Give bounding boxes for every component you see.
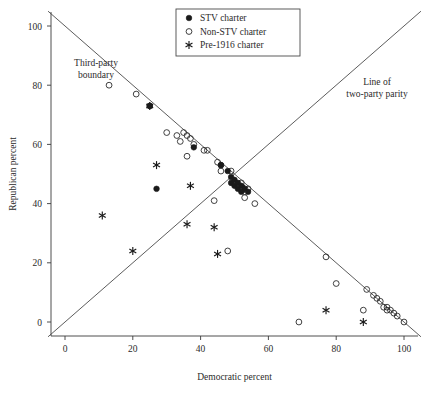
legend-marker-filled-circle <box>186 15 192 21</box>
point-non-stv-charter <box>225 248 231 254</box>
point-non-stv-charter <box>184 153 190 159</box>
point-stv-charter <box>147 103 153 109</box>
point-non-stv-charter <box>133 91 139 97</box>
legend-label: Pre-1916 charter <box>200 40 264 50</box>
scatter-chart-figure: 020406080100020406080100Democratic perce… <box>0 0 422 395</box>
x-tick-label: 0 <box>63 344 68 354</box>
y-tick-label: 60 <box>33 140 43 150</box>
point-stv-charter <box>218 162 224 168</box>
y-tick-label: 80 <box>33 81 43 91</box>
point-stv-charter <box>245 189 251 195</box>
x-tick-label: 20 <box>128 344 138 354</box>
plot-canvas: 020406080100020406080100Democratic perce… <box>0 0 422 395</box>
plot-layer: 020406080100020406080100Democratic perce… <box>8 9 421 382</box>
x-tick-label: 100 <box>397 344 412 354</box>
point-stv-charter <box>225 168 231 174</box>
point-stv-charter <box>154 186 160 192</box>
point-non-stv-charter <box>201 147 207 153</box>
x-tick-label: 40 <box>196 344 206 354</box>
point-non-stv-charter <box>296 319 302 325</box>
x-tick-label: 60 <box>264 344 274 354</box>
annotation-two-party-parity: Line of <box>363 77 392 87</box>
legend-label: Non-STV charter <box>200 27 267 37</box>
point-non-stv-charter <box>360 307 366 313</box>
point-non-stv-charter <box>211 198 217 204</box>
y-tick-label: 40 <box>33 199 43 209</box>
point-non-stv-charter <box>323 254 329 260</box>
point-non-stv-charter <box>177 139 183 145</box>
x-axis-title: Democratic percent <box>197 372 272 382</box>
point-non-stv-charter <box>164 130 170 136</box>
y-tick-label: 20 <box>33 258 43 268</box>
point-non-stv-charter <box>252 201 258 207</box>
annotation-third-party-boundary-line2: boundary <box>78 70 114 80</box>
y-tick-label: 100 <box>28 22 43 32</box>
y-tick-label: 0 <box>37 318 42 328</box>
x-tick-label: 80 <box>331 344 341 354</box>
y-axis-title: Republican percent <box>8 137 18 211</box>
point-non-stv-charter <box>242 195 248 201</box>
point-non-stv-charter <box>106 82 112 88</box>
point-non-stv-charter <box>333 281 339 287</box>
point-stv-charter <box>191 145 197 151</box>
annotation-third-party-boundary: Third-party <box>74 58 118 68</box>
annotation-two-party-parity-line2: two-party parity <box>346 89 408 99</box>
point-non-stv-charter <box>174 133 180 139</box>
legend-label: STV charter <box>200 13 247 23</box>
point-non-stv-charter <box>218 168 224 174</box>
